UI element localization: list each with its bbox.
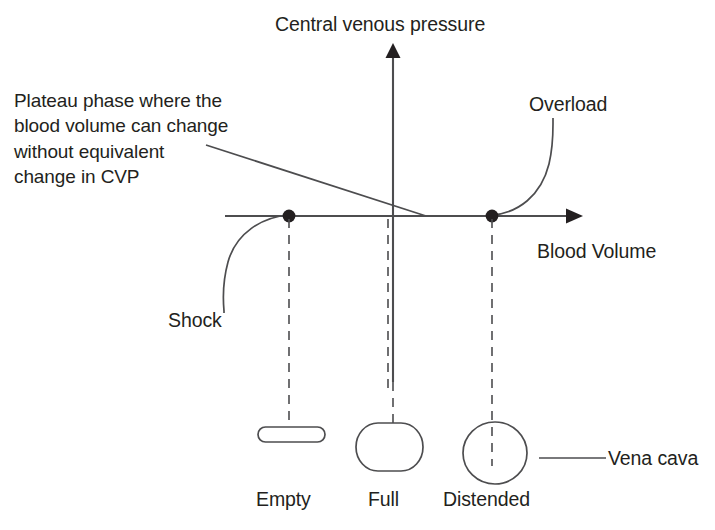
y-axis-arrow-icon: [386, 43, 401, 58]
shock-curve: [223, 215, 289, 311]
shock-annotation: Shock: [168, 308, 222, 333]
x-axis-title: Blood Volume: [537, 239, 656, 264]
overload-curve: [492, 124, 553, 215]
state-label-distended: Distended: [443, 487, 530, 512]
cvp-blood-volume-diagram: Central venous pressure Plateau phase wh…: [0, 0, 715, 530]
plateau-phase-annotation: Plateau phase where the blood volume can…: [14, 88, 228, 189]
state-label-full: Full: [368, 487, 399, 512]
vena-cava-annotation: Vena cava: [608, 446, 698, 471]
vena-cava-shape-distended: [463, 422, 527, 484]
vena-cava-shape-empty: [258, 427, 325, 442]
state-label-empty: Empty: [256, 487, 311, 512]
y-axis-title: Central venous pressure: [275, 12, 485, 37]
vena-cava-shape-full: [356, 423, 423, 471]
overload-annotation: Overload: [529, 92, 607, 117]
x-axis-arrow-icon: [566, 209, 583, 224]
